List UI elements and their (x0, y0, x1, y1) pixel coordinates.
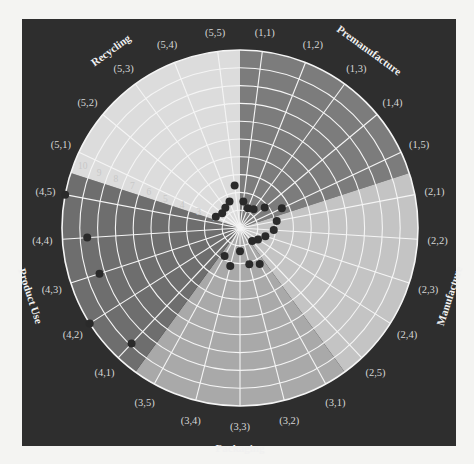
ring-label: 7 (130, 181, 135, 191)
data-point (239, 198, 247, 206)
category-label: Premanufacture (335, 23, 404, 78)
data-point (95, 270, 103, 278)
axis-label: (2,2) (428, 235, 449, 247)
axis-label: (5,5) (205, 27, 226, 39)
category-label: Packaging (216, 442, 265, 454)
data-point (245, 260, 253, 268)
axis-label: (1,5) (409, 139, 430, 151)
axis-label: (2,3) (418, 284, 439, 296)
axis-label: (5,4) (157, 39, 178, 51)
data-point (261, 232, 269, 240)
data-point (278, 204, 286, 212)
data-point (226, 262, 234, 270)
axis-label: (1,2) (303, 39, 324, 51)
ring-label: 4 (180, 200, 185, 210)
axis-label: (3,3) (230, 421, 251, 433)
data-point (128, 339, 136, 347)
data-point (86, 319, 94, 327)
data-point (231, 182, 239, 190)
axis-label: (5,3) (114, 63, 135, 75)
axis-label: (1,3) (346, 63, 367, 75)
data-point (83, 234, 91, 242)
category-label: Manufacture (434, 265, 464, 327)
data-point (270, 226, 278, 234)
axis-label: (4,5) (35, 186, 56, 198)
data-point (250, 205, 258, 213)
data-point (221, 252, 229, 260)
data-point (61, 191, 69, 199)
axis-label: (1,1) (255, 27, 276, 39)
axis-label: (2,4) (397, 329, 418, 341)
ring-label: 6 (147, 187, 152, 197)
ring-label: 10 (78, 161, 88, 171)
axis-label: (4,1) (94, 367, 115, 379)
axis-label: (2,1) (424, 186, 445, 198)
ring-label: 3 (196, 207, 201, 217)
data-point (236, 247, 244, 255)
axis-label: (2,5) (365, 367, 386, 379)
axis-label: (3,1) (325, 397, 346, 409)
axis-label: (3,2) (279, 415, 300, 427)
axis-label: (5,1) (51, 139, 72, 151)
category-label: Product Use (16, 267, 45, 326)
data-point (256, 260, 264, 268)
axis-label: (5,2) (77, 97, 98, 109)
data-point (248, 237, 256, 245)
axis-label: (1,4) (382, 97, 403, 109)
data-point (273, 217, 281, 225)
ring-label: 9 (97, 168, 102, 178)
data-point (226, 198, 234, 206)
axis-label: (4,2) (63, 329, 84, 341)
axis-label: (3,5) (135, 397, 156, 409)
axis-label: (4,3) (42, 284, 63, 296)
data-point (261, 204, 269, 212)
ring-label: 8 (113, 174, 118, 184)
axis-label: (4,4) (32, 235, 53, 247)
axis-label: (3,4) (181, 415, 202, 427)
ring-label: 5 (163, 194, 168, 204)
radar-chart: 2345678910 (1,1)(1,2)(1,3)(1,4)(1,5)(2,1… (0, 0, 474, 464)
